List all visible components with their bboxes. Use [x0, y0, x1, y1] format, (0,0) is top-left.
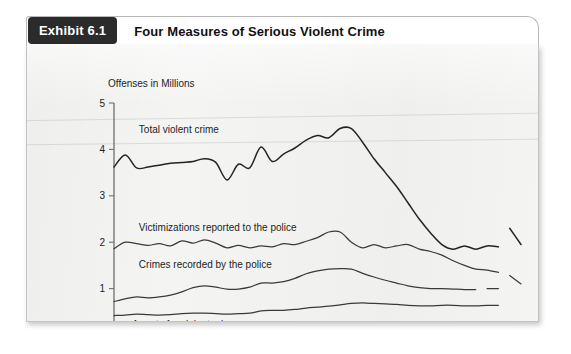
y-axis-tick-label: 5: [99, 98, 105, 109]
exhibit-title: Four Measures of Serious Violent Crime: [134, 24, 385, 39]
series-line-2-tail-segment: [510, 276, 521, 284]
series-line-3: [114, 269, 476, 302]
y-axis-caption: Offenses in Millions: [108, 78, 195, 89]
series-label-2: Victimizations reported to the police: [139, 222, 297, 233]
chart-svg: Offenses in Millions012345197319912009To…: [27, 45, 538, 321]
exhibit-number-badge: Exhibit 6.1: [28, 17, 117, 44]
exhibit-header: Exhibit 6.1 Four Measures of Serious Vio…: [26, 16, 539, 45]
screenshot-root: Exhibit 6.1 Four Measures of Serious Vio…: [0, 0, 571, 354]
series-line-4: [114, 303, 498, 316]
y-axis-tick-label: 2: [99, 237, 105, 248]
y-axis-tick-label: 4: [99, 144, 105, 155]
paper-scan-line: [27, 113, 538, 120]
line-chart: Offenses in Millions012345197319912009To…: [27, 45, 538, 321]
exhibit-body: Offenses in Millions012345197319912009To…: [26, 45, 539, 322]
series-label-3: Crimes recorded by the police: [139, 259, 272, 270]
series-label-4: Arrests for violent crime: [132, 319, 237, 321]
series-line-1-tail-segment: [510, 228, 521, 244]
y-axis-tick-label: 3: [99, 190, 105, 201]
series-label-1: Total violent crime: [139, 124, 219, 135]
y-axis-tick-label: 1: [99, 283, 105, 294]
exhibit-panel: Exhibit 6.1 Four Measures of Serious Vio…: [26, 16, 539, 322]
